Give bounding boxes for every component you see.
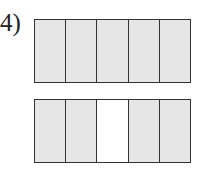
shaded-part — [160, 20, 190, 82]
problem-number: 4) — [0, 10, 21, 35]
unshaded-part — [97, 100, 128, 162]
shaded-part — [66, 20, 97, 82]
shaded-part — [97, 20, 128, 82]
shaded-part — [129, 100, 160, 162]
bottom-fraction-bar — [34, 99, 191, 163]
top-fraction-bar — [34, 19, 191, 83]
shaded-part — [66, 100, 97, 162]
shaded-part — [160, 100, 190, 162]
shaded-part — [35, 20, 66, 82]
shaded-part — [35, 100, 66, 162]
shaded-part — [129, 20, 160, 82]
